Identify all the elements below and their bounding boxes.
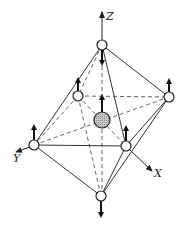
edge-top-backleft — [78, 45, 102, 96]
edge-top-frontright — [102, 45, 126, 146]
edge-top-left — [34, 45, 102, 145]
edge-right-bottom — [101, 97, 169, 196]
edge-backleft-right — [78, 96, 169, 97]
ligand-atom-top — [97, 40, 107, 50]
y-axis-label: Y — [13, 152, 22, 165]
z-axis-label: Z — [105, 10, 114, 23]
ligand-atom-bottom — [96, 191, 106, 201]
ligand-atom-back-left — [73, 91, 83, 101]
octahedron-diagram: Z X Y — [0, 0, 184, 228]
edge-left-frontright — [34, 145, 126, 146]
ligand-atom-left — [29, 140, 39, 150]
axes: Z X Y — [13, 10, 163, 180]
central-atom — [94, 112, 110, 128]
ligand-atom-right — [164, 92, 174, 102]
displacement-arrows — [34, 50, 169, 215]
x-axis — [130, 150, 152, 171]
edge-frontright-bottom — [101, 146, 126, 196]
x-axis-label: X — [153, 167, 163, 180]
ligand-atom-front-right — [121, 141, 131, 151]
